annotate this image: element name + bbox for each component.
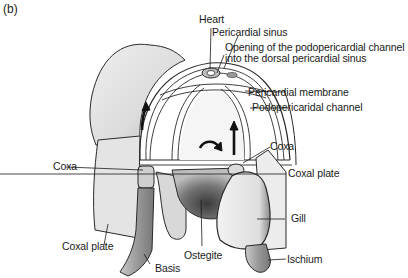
ischium — [246, 244, 271, 272]
label-ostegite: Ostegite — [184, 250, 222, 261]
label-opening-line2: into the dorsal pericardial sinus — [225, 53, 366, 64]
label-heart: Heart — [199, 14, 224, 25]
label-gill: Gill — [291, 213, 306, 224]
label-pericardial-sinus: Pericardial sinus — [212, 27, 287, 38]
label-coxal-plate-right: Coxal plate — [288, 168, 339, 179]
label-pericardial-membrane: Pericardial membrane — [248, 87, 349, 98]
label-coxa-left: Coxa — [53, 161, 77, 172]
diagram-figure: (b) Heart Pericardial sinus Opening of t… — [0, 0, 408, 278]
label-coxa-right: Coxa — [270, 141, 294, 152]
label-coxal-plate-left: Coxal plate — [62, 241, 113, 252]
label-basis: Basis — [155, 263, 180, 274]
label-podopericardial-channel: Podopericaridal channel — [252, 102, 362, 113]
panel-label: (b) — [3, 2, 18, 16]
label-ischium: Ischium — [287, 254, 322, 265]
